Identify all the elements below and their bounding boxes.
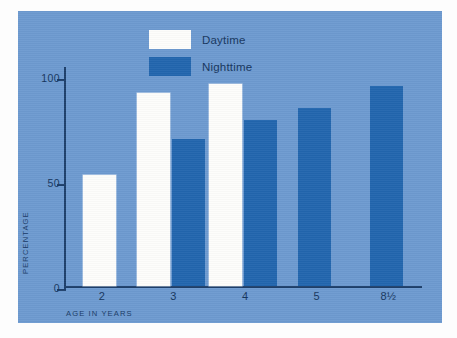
legend-item-daytime: Daytime [149,29,252,50]
x-tick-label: 5 [281,290,353,302]
bar-nighttime-8½ [370,86,403,286]
y-axis-title: PERCENTAGE [21,211,30,274]
x-axis-title: AGE IN YEARS [66,309,133,318]
chart-panel: Daytime Nighttime 0 50 100 P [18,11,442,323]
bar-daytime-3 [137,93,170,286]
x-tick-label: 4 [209,290,281,302]
y-tick-label: 0 [54,282,60,294]
bar-nighttime-5 [298,108,331,286]
legend-swatch-daytime [149,30,191,49]
bar-daytime-4 [209,84,242,286]
legend-label-daytime: Daytime [202,34,246,46]
plot-area: 0 50 100 PERCENTAGE AGE IN YEARS 23458½ [64,56,424,288]
y-tick-label: 100 [41,72,60,84]
bars-container: 23458½ [66,64,424,286]
figure-page: Daytime Nighttime 0 50 100 P [0,0,457,338]
bar-group: 3 [138,64,210,286]
bar-group: 8½ [352,64,424,286]
bar-group: 5 [281,64,353,286]
x-axis-line [64,286,422,288]
bar-group: 2 [66,64,138,286]
bar-group: 4 [209,64,281,286]
x-tick-label: 2 [66,290,138,302]
bar-daytime-2 [83,175,116,286]
y-tick-label: 50 [48,177,60,189]
bar-nighttime-4 [244,120,277,287]
x-tick-label: 8½ [352,290,424,302]
bar-nighttime-3 [172,139,205,286]
x-tick-label: 3 [138,290,210,302]
